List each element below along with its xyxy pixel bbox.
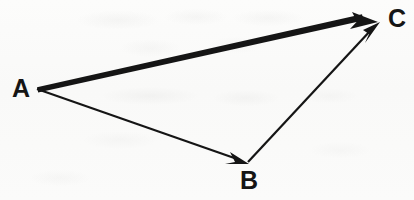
vector-diagram-figure: A B C — [0, 0, 414, 200]
vector-a-to-b — [37, 89, 249, 164]
vector-b-to-c — [248, 22, 380, 162]
vertex-label-a: A — [12, 76, 30, 101]
vertex-label-c: C — [388, 6, 406, 31]
vector-b-to-c-arrowhead — [363, 22, 380, 43]
vector-diagram-canvas — [0, 0, 414, 200]
vector-a-to-b-shaft — [37, 89, 240, 160]
vertex-label-b: B — [240, 168, 258, 193]
vector-a-to-b-arrowhead — [225, 152, 249, 164]
resultant-vector-a-to-c — [37, 12, 378, 92]
resultant-vector-a-to-c-shaft — [37, 14, 363, 92]
vector-b-to-c-shaft — [248, 30, 371, 162]
